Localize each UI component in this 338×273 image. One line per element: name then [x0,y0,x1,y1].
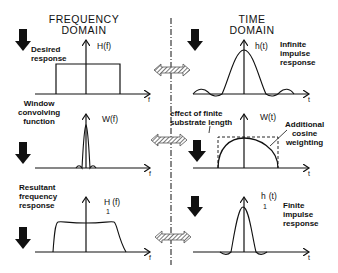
down-arrow-icon [188,140,206,162]
t-axis-label: t [308,96,310,103]
cosine-weighting-label: Additional cosine weighting [285,120,324,147]
h1-t-subscript: 1 [263,203,267,210]
t-axis-label: t [308,170,310,177]
h-t-label: h(t) [255,41,268,51]
down-arrow-icon [15,227,31,249]
infinite-impulse-response-label: Infinite impulse response [280,40,316,67]
h1-t-name: h [261,191,266,201]
window-convolving-function-label: Window convolving function [18,99,60,126]
down-arrow-icon [187,196,203,217]
h-f-label: H(f) [97,41,111,51]
finite-substrate-effect-label: effect of finite substrate length [170,109,232,127]
down-arrow-icon [15,29,31,51]
desired-response-label: Desired response [31,45,67,63]
finite-impulse-response-label: Finite impulse response [283,201,319,228]
h1-t-label: h(t) [261,191,277,201]
double-arrow-icon [155,231,191,243]
down-arrow-icon [187,29,203,51]
w-t-label: W(t) [260,112,276,122]
resultant-frequency-response-label: Resultant frequency response [19,183,57,210]
h1-f-name: H [104,197,110,207]
f-axis-label: f [148,96,150,103]
h1-f-subscript: 1 [106,208,110,215]
f-axis-label: f [149,170,151,177]
f-axis-label: f [149,254,151,261]
h1-t-arg: (t) [269,191,277,201]
double-arrow-icon [154,64,190,76]
w-f-label: W(f) [102,114,118,124]
frequency-domain-header: FREQUENCY DOMAIN [44,14,124,36]
time-domain-header: TIME DOMAIN [222,14,282,36]
h1-f-arg: (f) [112,197,120,207]
h1-f-label: H(f) [104,197,120,207]
double-arrow-icon [151,134,187,146]
down-arrow-icon [15,142,31,164]
t-axis-label: t [308,254,310,261]
